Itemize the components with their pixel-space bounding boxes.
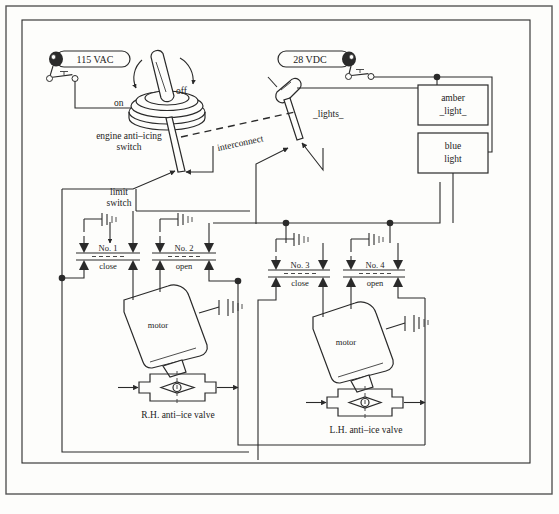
relay-no1 xyxy=(62,213,140,296)
schematic-canvas: 115 VAC 28 VDC on off engine anti–icing … xyxy=(0,0,559,514)
anti-icing-switch-label-2: switch xyxy=(117,142,142,152)
blue-light-label-2: light xyxy=(444,154,462,164)
relay-no1-action: close xyxy=(99,261,117,271)
relay-no4-number: No. 4 xyxy=(366,260,386,270)
limit-switch-label-1: limit xyxy=(110,187,128,197)
ac-bus-label: 115 VAC xyxy=(77,54,114,65)
relay-no3-number: No. 3 xyxy=(291,260,310,270)
actuation-arrows xyxy=(62,143,323,224)
lights-switch-label: _lights_ xyxy=(312,109,344,119)
rh-valve-label: R.H. anti–ice valve xyxy=(141,410,214,420)
anti-icing-switch-label-1: engine anti–icing xyxy=(96,131,162,141)
blue-light-label-1: blue xyxy=(445,141,461,151)
engine-anti-icing-switch[interactable] xyxy=(129,50,205,172)
relay-no4-action: open xyxy=(367,278,384,288)
lh-valve-label: L.H. anti–ice valve xyxy=(330,425,403,435)
dc-bus-label: 28 VDC xyxy=(293,54,327,65)
amber-light-label-2: _light_ xyxy=(439,106,467,116)
rh-actuator xyxy=(118,285,242,404)
relay-bus-lines xyxy=(133,182,440,243)
switch-off-label: off xyxy=(176,86,188,96)
limit-switch-label-2: switch xyxy=(107,198,132,208)
lh-motor-label: motor xyxy=(336,337,356,347)
page-border xyxy=(6,6,552,494)
amber-light-box xyxy=(418,85,488,125)
interconnect-label: interconnect xyxy=(216,133,264,153)
schematic-page: 115 VAC 28 VDC on off engine anti–icing … xyxy=(0,0,559,514)
switch-on-label: on xyxy=(114,98,124,108)
relay-no2 xyxy=(152,213,238,285)
rh-motor-label: motor xyxy=(148,320,168,330)
relay-no2-action: open xyxy=(176,261,193,271)
relay-no1-number: No. 1 xyxy=(99,243,118,253)
lh-actuator xyxy=(306,302,428,419)
amber-light-label-1: amber xyxy=(441,93,466,103)
relay-no3-action: close xyxy=(291,278,309,288)
relay-no2-number: No. 2 xyxy=(175,243,194,253)
